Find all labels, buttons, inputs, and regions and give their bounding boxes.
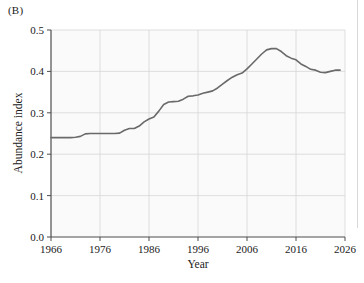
x-tick-labels: 1966197619861996200620162026: [40, 243, 357, 255]
x-tick-label: 1986: [138, 243, 161, 255]
y-tick-label: 0.1: [30, 190, 44, 202]
x-tick-label: 1976: [89, 243, 112, 255]
y-axis-title: Abundance index: [12, 92, 24, 173]
y-tick-label: 0.3: [30, 107, 44, 119]
x-tick-label: 2026: [334, 243, 357, 255]
x-tick-label: 2006: [236, 243, 259, 255]
x-tick-label: 1996: [187, 243, 210, 255]
x-axis-title: Year: [187, 258, 208, 270]
abundance-index-line-chart: 1966197619861996200620162026 0.00.10.20.…: [0, 0, 364, 283]
figure-panel-b: (B) 1966197619861996200620162026 0.00.10…: [0, 0, 364, 283]
y-tick-labels: 0.00.10.20.30.40.5: [30, 24, 44, 243]
y-tick-label: 0.2: [30, 148, 44, 160]
y-tick-label: 0.5: [30, 24, 44, 36]
y-tick-label: 0.4: [30, 65, 44, 77]
x-tick-label: 2016: [285, 243, 308, 255]
y-tick-label: 0.0: [30, 231, 44, 243]
x-tick-label: 1966: [40, 243, 63, 255]
chart-plot-area: 1966197619861996200620162026 0.00.10.20.…: [0, 0, 364, 283]
